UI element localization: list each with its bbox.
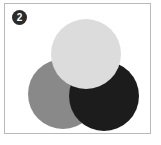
figure-panel: 2 <box>4 3 151 134</box>
venn-circle-light-gray <box>51 19 121 89</box>
venn-diagram-canvas <box>5 4 150 133</box>
panel-number-badge: 2 <box>12 10 27 25</box>
